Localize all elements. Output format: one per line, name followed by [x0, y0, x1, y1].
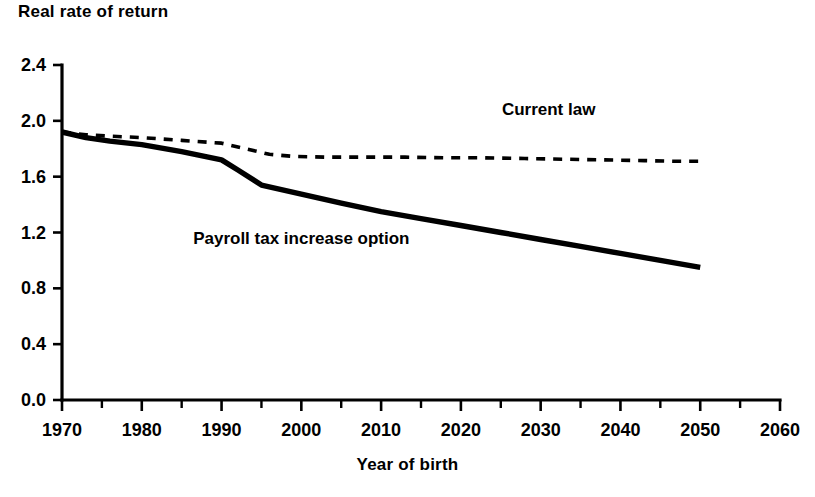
- x-tick-label: 2010: [361, 420, 401, 440]
- y-tick-label: 0.8: [21, 278, 46, 298]
- y-tick-label: 2.0: [21, 111, 46, 131]
- x-tick-label: 2060: [760, 420, 800, 440]
- y-tick-label: 2.4: [21, 55, 46, 75]
- x-tick-label: 1970: [42, 420, 82, 440]
- x-tick-label: 2000: [281, 420, 321, 440]
- y-axis: 0.00.40.81.21.62.02.4: [21, 55, 62, 410]
- series-label-1: Current law: [502, 100, 596, 119]
- x-tick-label: 2020: [441, 420, 481, 440]
- x-tick-label: 1990: [202, 420, 242, 440]
- chart-container: Real rate of return 0.00.40.81.21.62.02.…: [0, 0, 815, 497]
- series-label-2: Payroll tax increase option: [193, 229, 409, 248]
- y-tick-label: 1.6: [21, 167, 46, 187]
- x-axis: 1970198019902000201020202030204020502060: [42, 400, 800, 440]
- y-axis-tick-labels: 0.00.40.81.21.62.02.4: [21, 55, 46, 410]
- y-tick-label: 1.2: [21, 223, 46, 243]
- x-tick-label: 2030: [521, 420, 561, 440]
- y-tick-label: 0.4: [21, 334, 46, 354]
- x-axis-tick-labels: 1970198019902000201020202030204020502060: [42, 420, 800, 440]
- y-tick-label: 0.0: [21, 390, 46, 410]
- x-tick-label: 2050: [680, 420, 720, 440]
- series-annotation-layer: Current lawPayroll tax increase option: [193, 100, 596, 248]
- x-tick-label: 2040: [600, 420, 640, 440]
- x-axis-title: Year of birth: [0, 455, 815, 475]
- line-chart-plot: 0.00.40.81.21.62.02.4 197019801990200020…: [0, 0, 815, 497]
- x-tick-label: 1980: [122, 420, 162, 440]
